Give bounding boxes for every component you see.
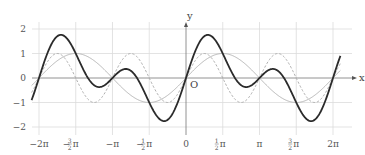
x-tick-label: 0: [183, 139, 189, 149]
x-tick-labels: −2π−32π−π−12π012ππ32π2π: [29, 137, 338, 151]
x-tick-pi: π: [146, 139, 152, 149]
y-tick-labels: 210−1−2: [13, 24, 27, 132]
x-tick-label: 32π: [288, 137, 299, 151]
x-tick-label: −32π: [63, 137, 79, 151]
chart: x y O −2π−32π−π−12π012ππ32π2π 210−1−2: [0, 0, 365, 155]
x-tick-frac-den: 2: [68, 144, 72, 151]
x-tick-label: 12π: [215, 137, 226, 151]
x-tick-label: 2π: [327, 139, 339, 149]
y-tick-label: −1: [13, 98, 26, 108]
origin-label: O: [190, 79, 198, 90]
x-axis-label: x: [359, 72, 365, 83]
y-axis-arrow-icon: [184, 22, 188, 27]
x-tick-pi: π: [73, 139, 79, 149]
x-tick-pi: π: [220, 139, 226, 149]
x-axis-arrow-icon: [352, 76, 357, 80]
x-tick-frac-den: 2: [215, 144, 219, 151]
x-tick-label: π: [257, 139, 263, 149]
y-tick-label: −2: [13, 122, 26, 132]
x-tick-label: −2π: [29, 139, 48, 149]
y-axis-label: y: [186, 10, 193, 21]
x-tick-frac-den: 2: [141, 144, 145, 151]
x-tick-frac-den: 2: [288, 144, 292, 151]
y-tick-label: 2: [20, 24, 26, 34]
x-tick-pi: π: [293, 139, 299, 149]
y-tick-label: 0: [20, 73, 26, 83]
x-tick-label: −π: [106, 139, 120, 149]
y-tick-label: 1: [20, 49, 26, 59]
x-tick-label: −12π: [136, 137, 152, 151]
